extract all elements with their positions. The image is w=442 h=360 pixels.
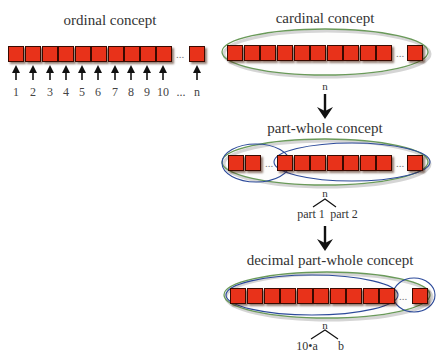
ones-label: b (338, 339, 344, 354)
split-branch-icon (0, 0, 442, 360)
tens-label: 10•a (296, 339, 318, 354)
